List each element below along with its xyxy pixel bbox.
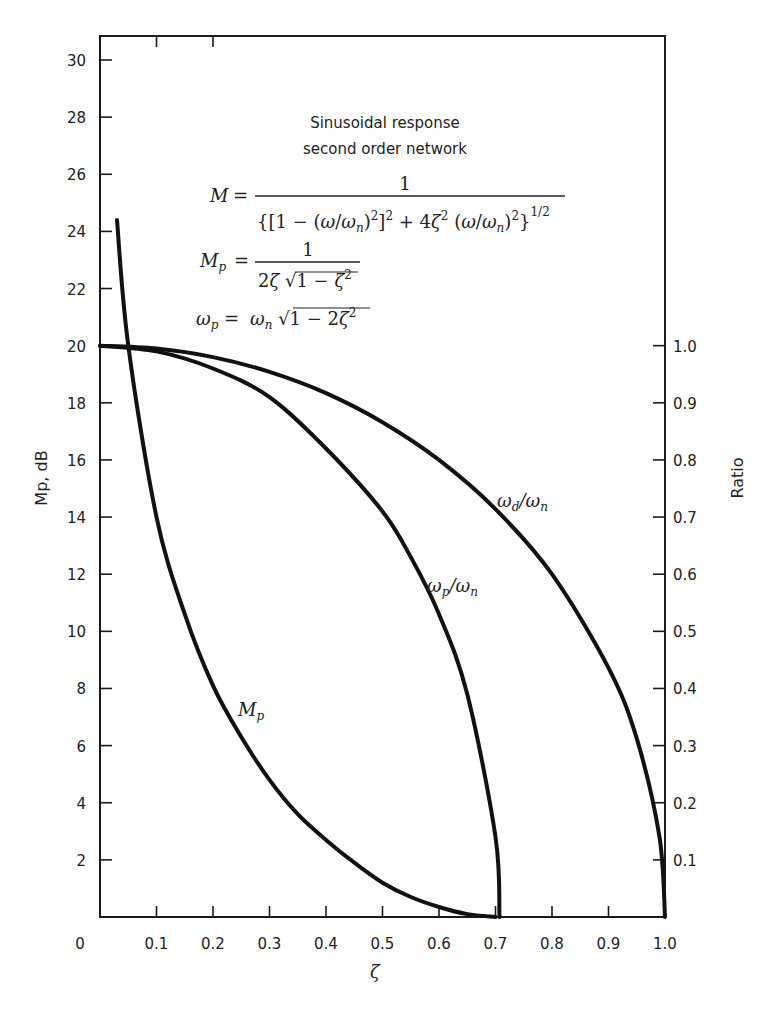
- chart-title-line-1: Sinusoidal response: [310, 114, 460, 132]
- x-tick-label: 0: [75, 935, 85, 953]
- x-tick-label: 0.8: [540, 935, 564, 953]
- y-right-tick-label: 0.2: [673, 795, 697, 813]
- y-left-tick-label: 26: [67, 166, 86, 184]
- svg-text:M: M: [209, 185, 229, 206]
- x-tick-label: 0.3: [258, 935, 282, 953]
- curve-wp-over-wn: [100, 346, 500, 917]
- y-left-tick-label: 30: [67, 52, 86, 70]
- y-right-tick-label: 0.1: [673, 852, 697, 870]
- y-right-axis-title: Ratio: [728, 457, 747, 498]
- x-tick-label: 1.0: [653, 935, 677, 953]
- y-right-axis-ticks: 0.10.20.30.40.50.60.70.80.91.0: [653, 338, 697, 870]
- y-left-tick-label: 10: [67, 623, 86, 641]
- x-tick-label: 0.2: [201, 935, 225, 953]
- curve-wd-over-wn: [100, 346, 665, 917]
- x-axis-title: ζ: [370, 961, 381, 982]
- equation-mp: Mp = 1 2ζ √1 − ζ2: [199, 239, 360, 291]
- y-left-tick-label: 18: [67, 395, 86, 413]
- y-left-tick-label: 16: [67, 452, 86, 470]
- y-left-tick-label: 28: [67, 109, 86, 127]
- curve-label-mp: Mp: [237, 699, 264, 723]
- equation-wp: ωp = ωn √1 − 2ζ2: [196, 306, 370, 332]
- svg-text:{[1 − (ω/ωn)2]2 + 4ζ2 (ω/ωn)2}: {[1 − (ω/ωn)2]2 + 4ζ2 (ω/ωn)2}1/2: [257, 205, 550, 235]
- svg-text:1: 1: [302, 239, 313, 260]
- x-tick-label: 0.6: [427, 935, 451, 953]
- svg-text:=: =: [233, 185, 248, 206]
- chart-title-line-2: second order network: [303, 140, 467, 158]
- y-left-tick-label: 12: [67, 566, 86, 584]
- top-axis-ticks: [157, 36, 214, 47]
- svg-text:=: =: [224, 308, 239, 329]
- equation-m: M = 1 {[1 − (ω/ωn)2]2 + 4ζ2 (ω/ωn)2}1/2: [209, 173, 565, 235]
- x-tick-label: 0.5: [371, 935, 395, 953]
- y-left-tick-label: 4: [76, 795, 86, 813]
- y-right-tick-label: 0.6: [673, 566, 697, 584]
- x-tick-label: 0.1: [145, 935, 169, 953]
- y-left-tick-label: 6: [76, 738, 86, 756]
- plot-frame: [100, 36, 665, 917]
- y-right-tick-label: 0.5: [673, 623, 697, 641]
- chart: 00.10.20.30.40.50.60.70.80.91.0 24681012…: [0, 0, 770, 1009]
- y-left-tick-label: 2: [76, 852, 86, 870]
- x-tick-label: 0.4: [314, 935, 338, 953]
- curve-label-wd-over-wn: ωd/ωn: [497, 490, 548, 514]
- y-left-axis-ticks: 24681012141618202224262830: [67, 52, 112, 870]
- y-left-tick-label: 24: [67, 223, 86, 241]
- y-right-tick-label: 0.9: [673, 395, 697, 413]
- svg-text:ωp: ωp: [196, 308, 219, 332]
- y-left-tick-label: 22: [67, 281, 86, 299]
- y-left-axis-title: Mp, dB: [32, 450, 51, 505]
- x-axis-ticks: 00.10.20.30.40.50.60.70.80.91.0: [75, 906, 677, 953]
- y-left-tick-label: 14: [67, 509, 86, 527]
- y-right-tick-label: 1.0: [673, 338, 697, 356]
- y-right-tick-label: 0.3: [673, 738, 697, 756]
- y-left-tick-label: 8: [76, 680, 86, 698]
- y-left-tick-label: 20: [67, 338, 86, 356]
- curve-label-wp-over-wn: ωp/ωn: [427, 575, 478, 599]
- x-tick-label: 0.7: [484, 935, 508, 953]
- svg-text:ωn √1 − 2ζ2: ωn √1 − 2ζ2: [250, 306, 356, 332]
- svg-text:Mp: Mp: [199, 250, 226, 274]
- y-right-tick-label: 0.7: [673, 509, 697, 527]
- svg-text:1: 1: [399, 173, 410, 194]
- y-right-tick-label: 0.8: [673, 452, 697, 470]
- x-tick-label: 0.9: [597, 935, 621, 953]
- svg-text:=: =: [234, 250, 249, 271]
- y-right-tick-label: 0.4: [673, 680, 697, 698]
